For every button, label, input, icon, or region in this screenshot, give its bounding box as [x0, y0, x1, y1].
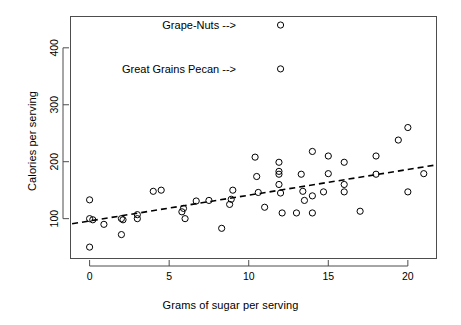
data-point [254, 173, 260, 179]
x-axis-tick-label: 10 [243, 270, 255, 282]
data-point [373, 153, 379, 159]
data-point [405, 124, 411, 130]
data-point [277, 22, 283, 28]
data-point [309, 193, 315, 199]
data-point [325, 153, 331, 159]
annotation-label: Great Grains Pecan --> [122, 63, 236, 75]
data-point [277, 66, 283, 72]
data-point [320, 189, 326, 195]
data-point [357, 208, 363, 214]
data-point [262, 204, 268, 210]
x-axis-tick-label: 15 [322, 270, 334, 282]
data-point [293, 210, 299, 216]
data-point [158, 187, 164, 193]
data-point [182, 216, 188, 222]
scatter-plot-figure: 100200300400 05101520 Grape-Nuts -->Grea… [0, 0, 461, 325]
data-point [120, 217, 126, 223]
data-point [405, 189, 411, 195]
data-point [252, 154, 258, 160]
data-point [86, 244, 92, 250]
data-point [255, 189, 261, 195]
data-point [395, 137, 401, 143]
data-point [341, 181, 347, 187]
data-point [134, 212, 140, 218]
data-point [150, 188, 156, 194]
data-point [279, 210, 285, 216]
y-axis: 100200300400 [48, 39, 69, 228]
data-point [325, 171, 331, 177]
data-point [309, 210, 315, 216]
data-points [86, 22, 426, 250]
y-axis-tick-label: 400 [48, 39, 60, 57]
data-point [86, 197, 92, 203]
data-point [219, 225, 225, 231]
data-point [341, 189, 347, 195]
data-point [421, 171, 427, 177]
data-point [206, 197, 212, 203]
chart-canvas: 100200300400 05101520 Grape-Nuts -->Grea… [0, 0, 461, 325]
x-axis: 05101520 [87, 260, 414, 282]
data-point [118, 231, 124, 237]
y-axis-tick-label: 100 [48, 210, 60, 228]
data-point [341, 159, 347, 165]
x-axis-tick-label: 20 [402, 270, 414, 282]
point-annotations: Grape-Nuts -->Great Grains Pecan --> [122, 19, 236, 75]
data-point [230, 187, 236, 193]
annotation-label: Grape-Nuts --> [162, 19, 236, 31]
data-point [276, 159, 282, 165]
x-axis-title: Grams of sugar per serving [0, 299, 461, 311]
data-point [101, 221, 107, 227]
y-axis-tick-label: 300 [48, 96, 60, 114]
trend-line [72, 165, 435, 224]
x-axis-tick-label: 5 [166, 270, 172, 282]
data-point [276, 181, 282, 187]
x-axis-tick-label: 0 [87, 270, 93, 282]
data-point [298, 171, 304, 177]
y-axis-title: Calories per serving [26, 61, 38, 221]
data-point [309, 148, 315, 154]
data-point [300, 188, 306, 194]
y-axis-tick-label: 200 [48, 153, 60, 171]
trend-line-segment [72, 165, 435, 224]
data-point [301, 197, 307, 203]
